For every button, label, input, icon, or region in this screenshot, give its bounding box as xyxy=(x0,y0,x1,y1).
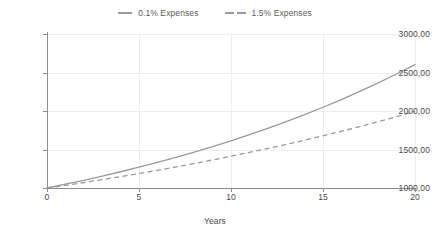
y-tick-label: 2000,00 xyxy=(386,106,430,116)
y-axis-line xyxy=(47,32,48,190)
y-tick-mark xyxy=(43,73,47,74)
legend-dashed-line-icon xyxy=(225,8,246,18)
x-tick-label: 0 xyxy=(27,192,67,203)
y-tick-mark xyxy=(43,150,47,151)
legend-label-series-0: 0.1% Expenses xyxy=(138,8,198,18)
y-tick-mark xyxy=(43,111,47,112)
x-tick-label: 5 xyxy=(119,192,159,203)
legend-label-series-1: 1.5% Expenses xyxy=(252,8,312,18)
y-tick-mark xyxy=(43,34,47,35)
legend-solid-line-icon xyxy=(118,8,132,18)
y-tick-label: 3000,00 xyxy=(386,29,430,39)
legend-item-series-1[interactable]: 1.5% Expenses xyxy=(225,8,312,18)
series-plot xyxy=(47,34,415,188)
chart-legend: 0.1% Expenses 1.5% Expenses xyxy=(0,5,430,21)
x-tick-label: 20 xyxy=(395,192,435,203)
x-tick-label: 15 xyxy=(303,192,343,203)
plot-area xyxy=(47,34,415,188)
x-axis-title: Years xyxy=(0,216,430,226)
y-tick-label: 1500,00 xyxy=(386,145,430,155)
y-tick-label: 2500,00 xyxy=(386,68,430,78)
x-tick-label: 10 xyxy=(211,192,251,203)
legend-item-series-0[interactable]: 0.1% Expenses xyxy=(118,8,198,18)
